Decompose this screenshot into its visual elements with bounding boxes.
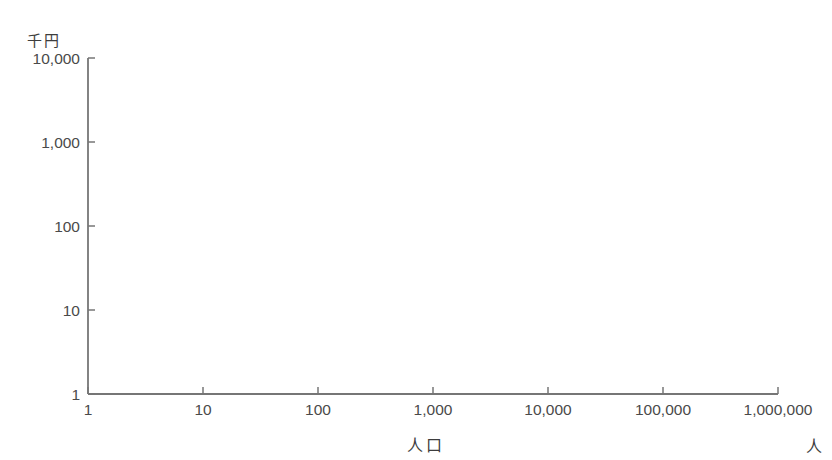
svg-text:10: 10 (194, 401, 212, 418)
svg-text:10: 10 (63, 302, 81, 319)
x-axis-unit-label: 人 (806, 433, 822, 457)
scatter-plot: 1101001,00010,000100,0001,000,0001101001… (0, 0, 832, 460)
svg-text:1: 1 (71, 386, 80, 403)
svg-text:10,000: 10,000 (33, 50, 81, 67)
svg-text:1,000,000: 1,000,000 (744, 401, 813, 418)
svg-text:1: 1 (84, 401, 93, 418)
svg-text:100: 100 (54, 218, 80, 235)
y-axis-unit-label: 千円 (27, 29, 61, 50)
svg-text:10,000: 10,000 (524, 401, 572, 418)
svg-text:100,000: 100,000 (635, 401, 691, 418)
x-axis-title: 人口 (402, 432, 450, 456)
svg-text:1,000: 1,000 (41, 134, 80, 151)
svg-text:100: 100 (305, 401, 331, 418)
scatter-chart-page: 1101001,00010,000100,0001,000,0001101001… (0, 0, 832, 460)
svg-text:1,000: 1,000 (414, 401, 453, 418)
